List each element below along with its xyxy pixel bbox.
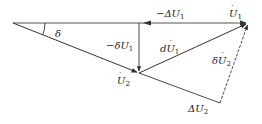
delta-angle-label: δ [55, 28, 61, 39]
u2-dot: · [119, 68, 122, 77]
minus-small-delta-u1-label: −δU1 [106, 40, 133, 53]
delta-angle-arc [43, 23, 45, 35]
minus-delta-u1-label: −ΔU1 [156, 8, 185, 21]
delta-u2-label: ΔU2 [187, 103, 208, 116]
delta-u2-line [139, 73, 220, 103]
du1-dot: · [170, 36, 173, 45]
u1-dot: · [231, 1, 234, 10]
minus-delta-u1-arrow-icon [143, 21, 151, 26]
phasor-diagram: δ −ΔU1 U1 · −δU1 dU1 · U2 · δU2 · ΔU2 [0, 0, 262, 124]
small-delta-u2-dot: · [222, 48, 225, 57]
